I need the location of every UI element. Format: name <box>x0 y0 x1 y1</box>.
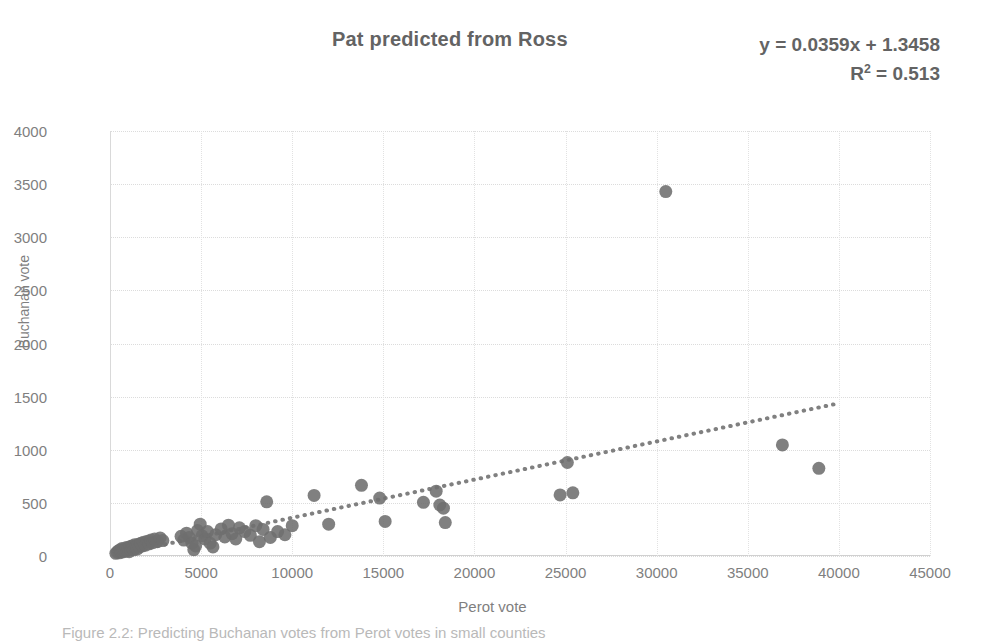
data-point <box>812 462 825 475</box>
y-tick-label: 3500 <box>14 176 47 193</box>
data-point <box>437 502 450 515</box>
plot-area <box>110 131 930 556</box>
r-squared-number: = 0.513 <box>871 63 940 84</box>
y-tick-label: 1500 <box>14 388 47 405</box>
x-tick-label: 5000 <box>184 564 217 581</box>
regression-equation: y = 0.0359x + 1.3458 <box>690 30 940 59</box>
x-axis-title: Perot vote <box>0 598 985 615</box>
y-tick-label: 1000 <box>14 441 47 458</box>
y-tick-label: 2500 <box>14 282 47 299</box>
r-squared-exponent: 2 <box>864 62 871 76</box>
x-tick-label: 10000 <box>271 564 313 581</box>
data-point <box>776 438 789 451</box>
data-point <box>308 489 321 502</box>
data-point <box>355 479 368 492</box>
data-point <box>322 518 335 531</box>
y-tick-label: 500 <box>22 494 47 511</box>
y-tick-label: 4000 <box>14 123 47 140</box>
data-point <box>206 540 219 553</box>
data-point <box>373 492 386 505</box>
x-tick-label: 40000 <box>818 564 860 581</box>
scatter-plot <box>110 131 930 556</box>
r-squared-label: R <box>850 63 864 84</box>
y-tick-label: 0 <box>39 548 47 565</box>
x-tick-label: 45000 <box>909 564 951 581</box>
data-point <box>561 456 574 469</box>
data-point <box>260 495 273 508</box>
data-point <box>156 534 169 547</box>
data-points <box>109 185 825 560</box>
x-tick-label: 15000 <box>362 564 404 581</box>
data-point <box>379 515 392 528</box>
data-point <box>554 488 567 501</box>
y-tick-label: 3000 <box>14 229 47 246</box>
x-tick-label: 0 <box>106 564 114 581</box>
x-tick-label: 25000 <box>545 564 587 581</box>
data-point <box>566 486 579 499</box>
x-tick-label: 30000 <box>636 564 678 581</box>
data-point <box>417 496 430 509</box>
data-point <box>439 516 452 529</box>
x-tick-label: 20000 <box>454 564 496 581</box>
data-point <box>430 485 443 498</box>
x-tick-label: 35000 <box>727 564 769 581</box>
figure-caption: Figure 2.2: Predicting Buchanan votes fr… <box>62 624 546 641</box>
data-point <box>286 519 299 532</box>
y-tick-label: 2000 <box>14 335 47 352</box>
gridline-horizontal <box>110 556 930 557</box>
gridline-vertical <box>930 131 931 556</box>
chart-title: Pat predicted from Ross <box>332 28 568 51</box>
r-squared-value: R2 = 0.513 <box>690 59 940 88</box>
regression-annotation: y = 0.0359x + 1.3458 R2 = 0.513 <box>690 30 940 89</box>
data-point <box>659 185 672 198</box>
